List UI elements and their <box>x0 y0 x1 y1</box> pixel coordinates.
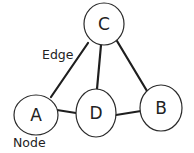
node-d-label: D <box>89 103 102 123</box>
edge-d-b <box>116 111 141 115</box>
edge-annotation: Edge <box>42 47 74 62</box>
node-b-label: B <box>155 98 167 118</box>
edge-a-d <box>57 110 76 113</box>
node-a-label: A <box>30 105 42 125</box>
node-c: C <box>84 3 124 45</box>
node-annotation: Node <box>13 135 46 150</box>
edge-c-b <box>117 41 147 91</box>
node-d: D <box>76 89 116 137</box>
graph-diagram: C A D B Edge Node <box>0 0 194 153</box>
node-a: A <box>14 95 58 135</box>
node-b: B <box>140 85 182 131</box>
edge-c-d <box>97 45 101 89</box>
node-c-label: C <box>98 14 110 34</box>
